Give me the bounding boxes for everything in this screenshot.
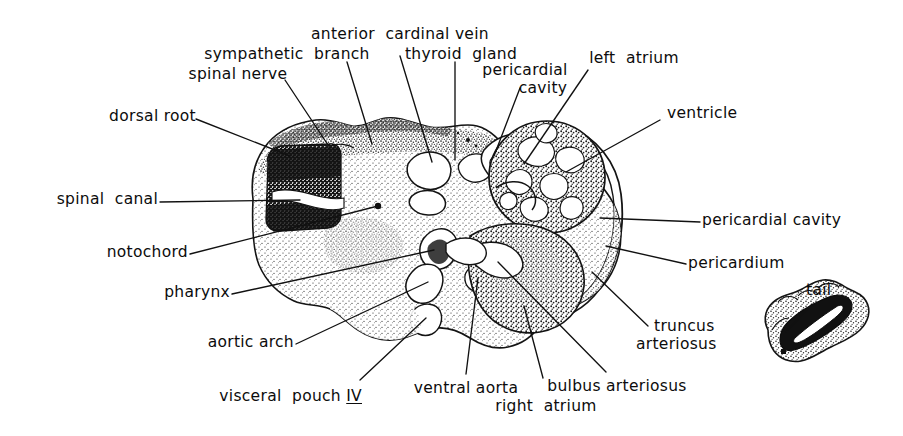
label-visceral-pouch-numeral: IV	[346, 387, 362, 405]
label-visceral-pouch: visceral pouch IV	[198, 370, 362, 423]
ventricle-trabeculae	[489, 121, 605, 233]
label-bulbus-arteriosus: bulbus arteriosus	[547, 378, 686, 396]
label-tail: tail	[806, 282, 831, 300]
anatomical-figure: anterior cardinal vein thyroid gland sym…	[0, 0, 903, 436]
embryo-cross-section	[252, 118, 622, 348]
leader-truncus-arteriosus	[592, 272, 648, 326]
label-ventral-aorta: ventral aorta	[414, 380, 519, 398]
label-left-atrium: left atrium	[589, 50, 679, 68]
label-pericardium: pericardium	[688, 255, 785, 273]
label-spinal-canal: spinal canal	[57, 191, 158, 209]
label-visceral-pouch-text: visceral pouch	[219, 387, 346, 405]
label-notochord: notochord	[107, 244, 188, 262]
label-anterior-cardinal-vein: anterior cardinal vein	[311, 26, 489, 44]
label-spinal-nerve: spinal nerve	[189, 66, 288, 84]
label-sympathetic-branch: sympathetic branch	[204, 46, 369, 64]
label-truncus: truncus	[654, 318, 715, 336]
label-pericardial-cavity-right: pericardial cavity	[702, 212, 841, 230]
label-ventricle: ventricle	[667, 105, 737, 123]
label-aortic-arch: aortic arch	[208, 334, 294, 352]
label-arteriosus: arteriosus	[636, 336, 717, 354]
anterior-cardinal-vein	[407, 152, 451, 215]
label-pericardial-cavity-top-line1: pericardial	[482, 62, 567, 80]
label-pharynx: pharynx	[164, 284, 230, 302]
label-dorsal-root: dorsal root	[109, 108, 196, 126]
label-pericardial-cavity-top-line2: cavity	[519, 80, 568, 98]
label-right-atrium: right atrium	[495, 398, 596, 416]
